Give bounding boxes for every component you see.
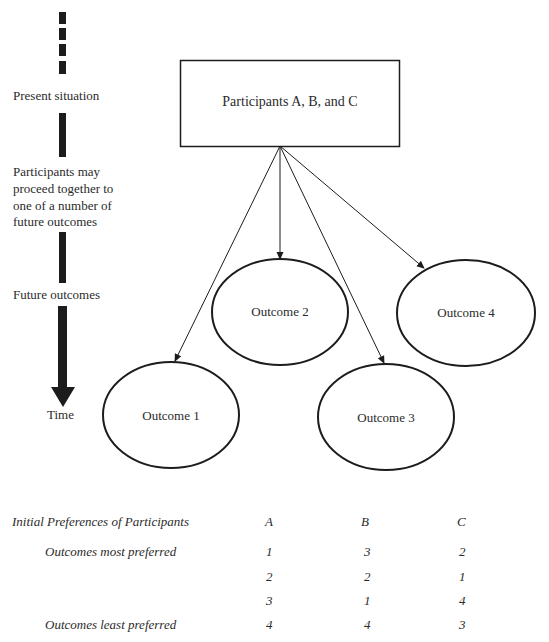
- table-cell: 2: [459, 544, 466, 560]
- table-cell: 4: [459, 593, 466, 609]
- table-cell: 3: [266, 593, 273, 609]
- column-header-a: A: [265, 514, 273, 530]
- table-cell: 2: [266, 569, 273, 585]
- outcome-3-label: Outcome 3: [326, 410, 446, 426]
- arrow-to-outcome-4: [280, 146, 424, 268]
- table-cell: 1: [364, 593, 371, 609]
- table-cell: 2: [364, 569, 371, 585]
- table-cell: 4: [364, 617, 371, 633]
- outcome-2-label: Outcome 2: [220, 304, 340, 320]
- outcome-1-label: Outcome 1: [111, 408, 231, 424]
- column-header-c: C: [457, 514, 466, 530]
- arrow-to-outcome-1: [175, 146, 280, 361]
- participants-box-label: Participants A, B, and C: [180, 94, 400, 110]
- outcome-4-label: Outcome 4: [406, 305, 526, 321]
- table-cell: 1: [459, 569, 466, 585]
- table-cell: 4: [266, 617, 273, 633]
- arrow-to-outcome-3: [280, 146, 384, 363]
- row-label-least-preferred: Outcomes least preferred: [45, 617, 176, 633]
- table-cell: 1: [266, 544, 273, 560]
- column-header-b: B: [361, 514, 369, 530]
- table-title: Initial Preferences of Participants: [12, 514, 189, 530]
- table-cell: 3: [459, 617, 466, 633]
- table-cell: 3: [364, 544, 371, 560]
- row-label-most-preferred: Outcomes most preferred: [45, 544, 176, 560]
